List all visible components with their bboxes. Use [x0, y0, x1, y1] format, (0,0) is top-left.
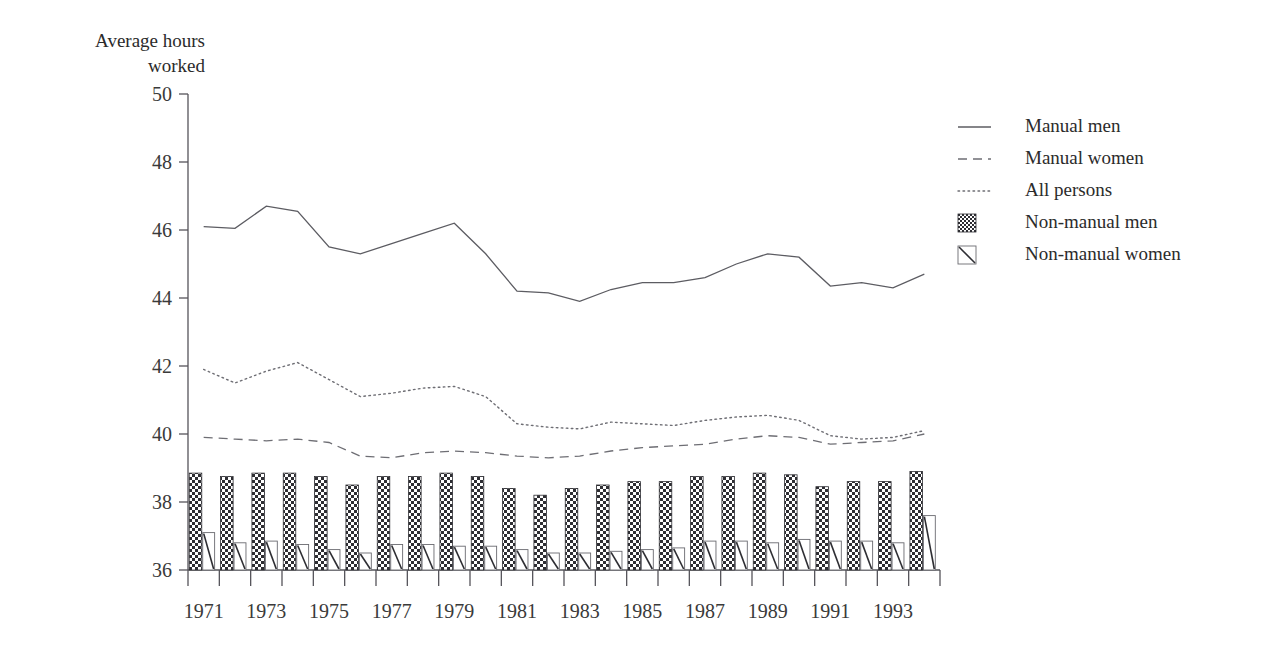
bar-non-manual-men: [628, 482, 641, 570]
x-tick-label: 1993: [873, 600, 913, 622]
legend-label: All persons: [1025, 179, 1112, 200]
lines-layer: [204, 206, 925, 458]
checker-swatch-icon: [958, 214, 976, 232]
y-tick-label: 50: [152, 83, 172, 105]
bar-non-manual-men: [847, 482, 860, 570]
chart-legend: Manual menManual womenAll personsNon-man…: [958, 115, 1181, 264]
legend-item: Non-manual men: [958, 211, 1158, 232]
bar-non-manual-men: [283, 473, 296, 570]
x-tick-label: 1985: [622, 600, 662, 622]
bar-non-manual-men: [691, 477, 704, 571]
bar-non-manual-men: [753, 473, 766, 570]
x-tick-label: 1977: [372, 600, 412, 622]
bar-non-manual-men: [722, 477, 735, 571]
bar-non-manual-men: [879, 482, 892, 570]
series-line-manual-women: [204, 434, 925, 458]
x-tick-label: 1987: [685, 600, 725, 622]
bar-non-manual-men: [534, 495, 547, 570]
bar-non-manual-men: [910, 471, 923, 570]
legend-label: Manual men: [1025, 115, 1121, 136]
series-line-manual-men: [204, 206, 925, 301]
bar-non-manual-men: [659, 482, 672, 570]
y-tick-label: 44: [152, 287, 172, 309]
legend-label: Manual women: [1025, 147, 1144, 168]
bar-non-manual-men: [471, 477, 484, 571]
x-tick-label: 1989: [748, 600, 788, 622]
bar-non-manual-men: [252, 473, 265, 570]
x-tick-label: 1981: [497, 600, 537, 622]
y-tick-label: 38: [152, 491, 172, 513]
x-tick-label: 1971: [184, 600, 224, 622]
y-tick-label: 36: [152, 559, 172, 581]
series-line-all-persons: [204, 363, 925, 440]
y-tick-label: 40: [152, 423, 172, 445]
x-tick-label: 1991: [810, 600, 850, 622]
x-tick-label: 1983: [560, 600, 600, 622]
y-tick-label: 48: [152, 151, 172, 173]
y-tick-label: 46: [152, 219, 172, 241]
bar-non-manual-men: [503, 488, 516, 570]
bar-non-manual-men: [785, 475, 798, 570]
bar-non-manual-men: [377, 477, 390, 571]
bar-non-manual-men: [816, 487, 829, 570]
x-tick-label: 1973: [246, 600, 286, 622]
legend-item: All persons: [958, 179, 1112, 200]
bar-non-manual-men: [440, 473, 453, 570]
bar-non-manual-men: [221, 477, 234, 571]
chart-figure: Average hours worked 3638404244464850 19…: [0, 0, 1264, 651]
legend-label: Non-manual women: [1025, 243, 1181, 264]
bar-non-manual-men: [597, 485, 610, 570]
x-tick-label: 1975: [309, 600, 349, 622]
legend-item: Manual women: [958, 147, 1144, 168]
bar-non-manual-men: [346, 485, 359, 570]
bar-non-manual-men: [315, 477, 328, 571]
chart-canvas: 3638404244464850 19711973197519771979198…: [0, 0, 1264, 651]
legend-item: Non-manual women: [958, 243, 1181, 264]
y-tick-label: 42: [152, 355, 172, 377]
x-axis-labels: 1971197319751977197919811983198519871989…: [184, 600, 913, 622]
legend-item: Manual men: [958, 115, 1121, 136]
bars-layer: [189, 471, 935, 570]
legend-label: Non-manual men: [1025, 211, 1158, 232]
bar-non-manual-men: [409, 477, 422, 571]
bar-non-manual-men: [565, 488, 578, 570]
bar-non-manual-men: [189, 473, 202, 570]
x-tick-label: 1979: [434, 600, 474, 622]
